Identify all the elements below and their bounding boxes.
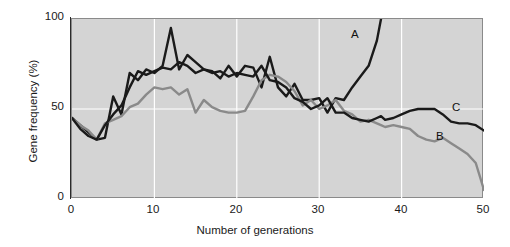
x-tick-label-30: 30 — [303, 203, 333, 215]
plot-area — [71, 18, 483, 198]
gene-frequency-chart: 100 50 0 Gene frequency (%) 0 10 20 30 4… — [0, 0, 510, 247]
x-tick-label-20: 20 — [221, 203, 251, 215]
plot-svg — [72, 19, 484, 199]
y-tick-label-0: 0 — [30, 190, 64, 202]
y-axis-title: Gene frequency (%) — [27, 36, 39, 186]
x-tick-label-10: 10 — [138, 203, 168, 215]
series-paths — [72, 19, 484, 190]
x-axis-title: Number of generations — [0, 224, 510, 236]
y-tick-label-100: 100 — [30, 10, 64, 22]
series-line-c — [72, 62, 484, 139]
x-tick-label-0: 0 — [56, 203, 86, 215]
x-tick-label-40: 40 — [386, 203, 416, 215]
series-line-b — [72, 75, 484, 190]
series-line-a — [72, 19, 381, 140]
series-label-a: A — [351, 28, 359, 40]
series-label-c: C — [452, 101, 460, 113]
series-label-b: B — [436, 130, 444, 142]
x-tick-label-50: 50 — [468, 203, 498, 215]
